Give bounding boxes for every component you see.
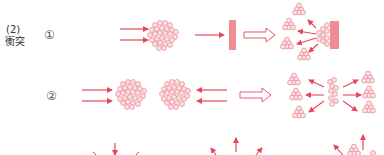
result-hollow-arrow [244, 28, 275, 42]
scatter-arrow [343, 101, 357, 111]
collision-diagram [0, 0, 384, 155]
wall-after [330, 21, 339, 49]
scatter-arrow [309, 80, 324, 87]
scattered-cluster [348, 144, 361, 155]
wall [229, 20, 236, 50]
scattered-cluster [290, 88, 303, 100]
scattered-cluster [293, 106, 306, 118]
scattered-cluster [362, 71, 375, 83]
compressed-particles [317, 23, 330, 47]
scattered-cluster [283, 18, 296, 30]
particle-cluster-left [116, 80, 147, 110]
particle-cluster [148, 21, 179, 51]
particle-cluster-right [160, 80, 191, 110]
rebound-arrow [309, 44, 318, 52]
diagonal-arrow [93, 152, 96, 155]
scatter-arrow [309, 101, 324, 112]
diagonal-up-arrow [211, 148, 216, 155]
row-3-partial [93, 135, 375, 155]
scattered-cluster [363, 86, 376, 98]
scattered-cluster [363, 101, 376, 113]
diagonal-arrow [136, 152, 139, 155]
scattered-cluster [288, 73, 301, 85]
rebound-arrow [297, 38, 316, 44]
result-hollow-arrow [240, 88, 271, 102]
row-2 [82, 71, 375, 118]
scattered-cluster [298, 48, 311, 60]
rebound-arrow [308, 20, 316, 28]
scattered-cluster [281, 37, 294, 49]
scatter-arrow [343, 80, 358, 87]
central-particles [328, 78, 339, 107]
diagonal-up-arrow [334, 145, 343, 155]
rebound-arrow [298, 31, 316, 34]
scattered-cluster [293, 3, 306, 15]
diagonal-up-arrow [256, 148, 262, 155]
row-1 [120, 3, 339, 60]
